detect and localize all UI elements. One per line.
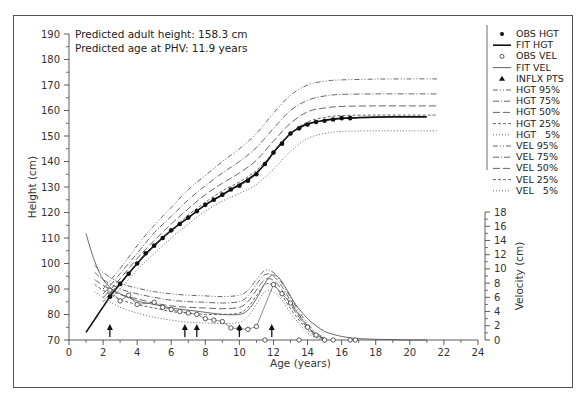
obs-hgt-point [297, 126, 302, 131]
obs-hgt-point [339, 116, 344, 121]
legend-item-hgt-75: HGT 75% [493, 95, 560, 106]
annotation-phv-age: Predicted age at PHV: 11.9 years [75, 42, 247, 54]
y-tick-label: 120 [41, 207, 60, 218]
y2-tick-label: 18 [494, 207, 507, 218]
legend-label: VEL 5% [516, 185, 558, 196]
x-tick-label: 2 [100, 347, 106, 358]
obs-vel-point [161, 305, 165, 309]
legend-item-hgt-95: HGT 95% [493, 84, 560, 95]
inflection-arrow-icon [182, 324, 188, 330]
vel-25-curve [95, 284, 325, 340]
obs-hgt-point [237, 183, 242, 188]
x-axis-title: Age (years) [270, 357, 331, 369]
inflection-arrow-icon [194, 324, 200, 330]
legend-label: HGT 75% [516, 95, 560, 106]
legend-label: VEL 50% [516, 162, 558, 173]
y-tick-label: 160 [41, 105, 60, 116]
fit-hgt-curve [86, 117, 427, 333]
y2-tick-label: 16 [494, 221, 507, 232]
obs-vel-point [280, 292, 284, 296]
y-tick-label: 100 [41, 258, 60, 269]
obs-vel-point [220, 319, 224, 323]
legend: OBS HGTFIT HGTOBS VELFIT VELINFLX PTSHGT… [493, 28, 564, 196]
annotation-adult-height: Predicted adult height: 158.3 cm [75, 28, 248, 40]
y2-axis-title: Velocity (cm) [513, 242, 525, 311]
obs-hgt-point [220, 192, 225, 197]
hgt-95-curve [103, 79, 437, 289]
legend-item-obs-vel: OBS VEL [500, 50, 557, 61]
x-tick-label: 0 [66, 347, 72, 358]
obs-vel-point [126, 293, 130, 297]
obs-vel-point [263, 338, 267, 342]
y-tick-label: 140 [41, 156, 60, 167]
x-tick-label: 6 [168, 347, 174, 358]
y-tick-label: 80 [47, 309, 60, 320]
legend-label: VEL 75% [516, 151, 558, 162]
obs-vel-point [203, 316, 207, 320]
legend-item-hgt-25: HGT 25% [493, 118, 560, 129]
obs-hgt-point [126, 271, 131, 276]
obs-hgt-point [331, 117, 336, 122]
obs-hgt-point [229, 187, 234, 192]
obs-hgt-point [254, 172, 259, 177]
legend-label: OBS VEL [516, 50, 557, 61]
obs-vel-point [186, 311, 190, 315]
legend-label: INFLX PTS [516, 73, 564, 84]
obs-vel-point [322, 338, 326, 342]
y-tick-label: 110 [41, 233, 60, 244]
obs-vel-point [305, 325, 309, 329]
obs-vel-point [169, 307, 173, 311]
legend-item-fit-hgt: FIT HGT [493, 39, 553, 50]
obs-vel-point [288, 301, 292, 305]
obs-hgt-point [212, 197, 217, 202]
obs-vel-point [178, 309, 182, 313]
triangle-icon [499, 76, 505, 81]
obs-hgt-point [152, 243, 157, 248]
obs-hgt-point [288, 131, 293, 136]
obs-hgt-point [263, 162, 268, 167]
obs-vel-point [314, 333, 318, 337]
y2-tick-label: 14 [494, 235, 507, 246]
legend-item-vel-5: VEL 5% [493, 185, 558, 196]
x-tick-label: 24 [472, 347, 485, 358]
legend-item-vel-75: VEL 75% [493, 151, 558, 162]
legend-label: HGT 95% [516, 84, 560, 95]
obs-vel-point [353, 338, 357, 342]
y-axis-title: Height (cm) [26, 156, 38, 218]
obs-hgt-point [177, 222, 182, 227]
obs-vel-point [229, 326, 233, 330]
legend-item-vel-25: VEL 25% [493, 174, 558, 185]
obs-hgt-point [143, 251, 148, 256]
x-tick-label: 18 [369, 347, 382, 358]
obs-vel-point [108, 288, 112, 292]
legend-item-inflx-pts: INFLX PTS [499, 73, 564, 84]
filled-dot-icon [500, 32, 504, 36]
legend-item-vel-50: VEL 50% [493, 162, 558, 173]
y-tick-label: 150 [41, 131, 60, 142]
obs-vel-point [152, 300, 156, 304]
inflection-arrow-icon [269, 324, 275, 330]
obs-hgt-point [246, 178, 251, 183]
x-tick-label: 10 [233, 347, 246, 358]
obs-hgt-point [108, 294, 113, 299]
obs-vel-point [246, 327, 250, 331]
curves [86, 79, 437, 340]
obs-vel-point [331, 338, 335, 342]
legend-item-hgt-5: HGT 5% [493, 129, 560, 140]
y-tick-label: 170 [41, 80, 60, 91]
legend-label: FIT VEL [516, 62, 552, 73]
obs-hgt-point [169, 228, 174, 233]
y2-tick-label: 4 [494, 306, 500, 317]
growth-chart: 7080901001101201301401501601701801900246… [0, 0, 582, 405]
inflection-arrow-icon [107, 324, 113, 330]
obs-vel-point [212, 318, 216, 322]
obs-vel-point [271, 282, 275, 286]
obs-hgt-point [271, 150, 276, 155]
legend-item-fit-vel: FIT VEL [493, 62, 552, 73]
x-tick-label: 4 [134, 347, 140, 358]
hgt-75-curve [103, 94, 437, 294]
y-tick-label: 70 [47, 335, 60, 346]
obs-vel-point [297, 338, 301, 342]
obs-hgt-point [348, 116, 353, 121]
y2-tick-label: 2 [494, 320, 500, 331]
